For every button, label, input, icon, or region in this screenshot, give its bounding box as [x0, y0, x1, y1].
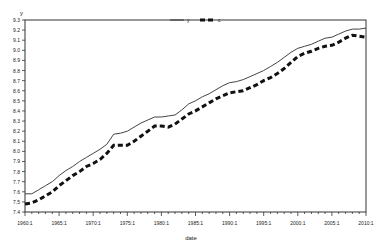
y-tick-label: 8.3	[13, 118, 20, 124]
y-tick-label: 7.5	[13, 199, 20, 205]
x-tick-label: 1990:1	[222, 220, 238, 226]
line-chart: 7.47.57.67.77.87.98.08.18.28.38.48.58.68…	[0, 0, 382, 250]
y-tick-label: 8.4	[13, 108, 20, 114]
y-tick-label: 8.8	[13, 68, 20, 74]
y-tick-label: 7.4	[13, 209, 20, 215]
y-tick-label: 7.7	[13, 179, 20, 185]
x-tick-label: 1985:1	[188, 220, 204, 226]
y-axis: 7.47.57.67.77.87.98.08.18.28.38.48.58.68…	[13, 17, 25, 215]
y-tick-label: 8.2	[13, 128, 20, 134]
y-axis-label: y	[20, 10, 23, 16]
x-tick-label: 2010:1	[358, 220, 374, 226]
x-tick-label: 1980:1	[154, 220, 170, 226]
y-tick-label: 8.1	[13, 138, 20, 144]
x-tick-label: 1995:1	[256, 220, 272, 226]
y-tick-label: 8.5	[13, 98, 20, 104]
y-tick-label: 9.3	[13, 17, 20, 23]
y-tick-label: 9.0	[13, 47, 20, 53]
x-tick-label: 1970:1	[86, 220, 102, 226]
x-tick-label: 1960:1	[17, 220, 33, 226]
y-tick-label: 7.8	[13, 169, 20, 175]
x-axis-label: date	[185, 235, 197, 241]
y-tick-label: 9.2	[13, 27, 20, 33]
x-tick-label: 2000:1	[290, 220, 306, 226]
y-tick-label: 7.6	[13, 189, 20, 195]
series-c-line	[25, 35, 366, 204]
x-axis: 1960:11965:11970:11975:11980:11985:11990…	[17, 212, 374, 226]
y-tick-label: 9.1	[13, 37, 20, 43]
x-tick-label: 1965:1	[51, 220, 67, 226]
x-tick-label: 1975:1	[120, 220, 136, 226]
x-tick-label: 2005:1	[324, 220, 340, 226]
y-tick-label: 8.9	[13, 57, 20, 63]
y-tick-label: 8.6	[13, 88, 20, 94]
y-tick-label: 7.9	[13, 158, 20, 164]
series-lines	[25, 28, 366, 204]
y-tick-label: 8.7	[13, 78, 20, 84]
y-tick-label: 8.0	[13, 148, 20, 154]
